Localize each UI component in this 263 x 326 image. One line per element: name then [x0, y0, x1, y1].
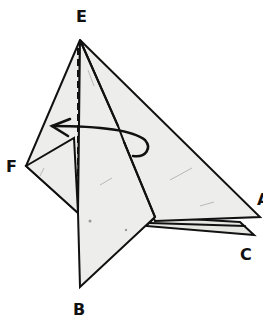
label-b: B	[73, 300, 85, 319]
label-e: E	[76, 7, 87, 26]
origami-diagram: E F A C B	[0, 0, 263, 326]
label-c: C	[240, 245, 252, 264]
label-a: A	[257, 190, 263, 209]
label-f: F	[6, 157, 17, 176]
